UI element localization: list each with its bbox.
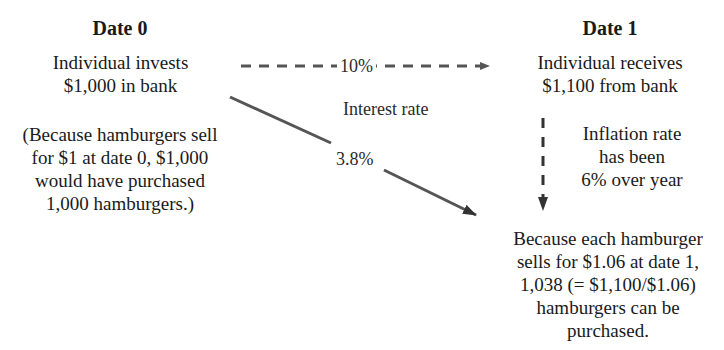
date0-description: Individual invests $1,000 in bank	[28, 51, 213, 97]
text-line: 6% over year	[572, 168, 692, 191]
inflation-note: Inflation rate has been 6% over year	[572, 122, 692, 191]
text-line: $1,000 in bank	[28, 74, 213, 97]
text-line: purchased.	[497, 319, 719, 342]
text-line: would have purchased	[6, 169, 234, 192]
text-line: (Because hamburgers sell	[6, 123, 234, 146]
real-rate-arrow-segment-1	[230, 97, 331, 143]
interest-rate-label: Interest rate	[343, 98, 428, 120]
date1-description: Individual receives $1,100 from bank	[510, 51, 710, 97]
text-line: 1,000 hamburgers.)	[6, 192, 234, 215]
text-line: has been	[572, 145, 692, 168]
text-line: hamburgers can be	[497, 296, 719, 319]
text-line: $1,100 from bank	[510, 74, 710, 97]
text-line: Individual invests	[28, 51, 213, 74]
text-line: Because each hamburger	[497, 227, 719, 250]
nominal-rate-label: 10%	[337, 55, 376, 77]
text-line: Individual receives	[510, 51, 710, 74]
text-line: 1,038 (= $1,100/$1.06)	[497, 273, 719, 296]
date1-heading: Date 1	[555, 17, 665, 40]
text-line: Inflation rate	[572, 122, 692, 145]
text-line: for $1 at date 0, $1,000	[6, 146, 234, 169]
date1-result: Because each hamburger sells for $1.06 a…	[497, 227, 719, 342]
text-line: sells for $1.06 at date 1,	[497, 250, 719, 273]
date0-heading: Date 0	[60, 17, 180, 40]
real-rate-arrow-segment-2	[384, 170, 476, 215]
real-rate-label: 3.8%	[336, 148, 374, 170]
date0-note: (Because hamburgers sell for $1 at date …	[6, 123, 234, 215]
